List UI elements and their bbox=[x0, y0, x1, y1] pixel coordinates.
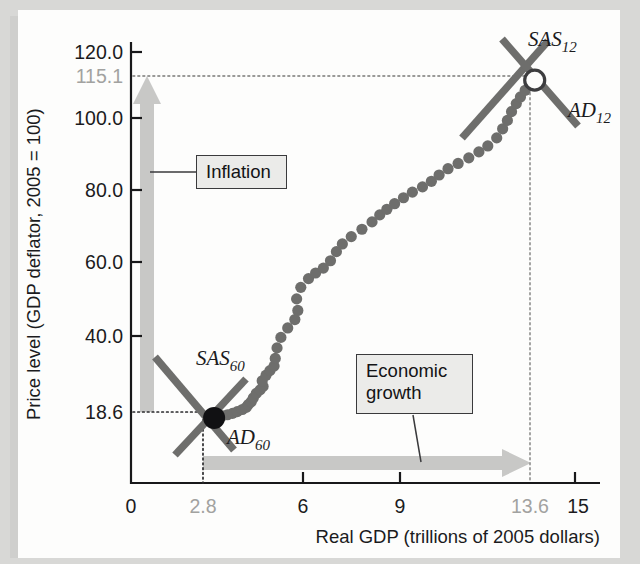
sas12-label-text: SAS bbox=[528, 27, 562, 51]
inflation-callout-text: Inflation bbox=[206, 161, 271, 182]
economic-growth-callout: Economic growth bbox=[356, 354, 473, 414]
x-tick-label-9: 9 bbox=[395, 495, 406, 517]
x-tick-label-0: 0 bbox=[126, 495, 137, 517]
ad60-label-sub: 60 bbox=[255, 437, 271, 453]
y-tick-label-60: 60.0 bbox=[85, 251, 123, 273]
x-axis-title: Real GDP (trillions of 2005 dollars) bbox=[316, 526, 600, 547]
x-tick-label-28: 2.8 bbox=[189, 495, 216, 517]
x-tick-label-15: 15 bbox=[567, 495, 589, 517]
ad12-label-sub: 12 bbox=[596, 110, 612, 126]
chart-figure: Price level (GDP deflator, 2005 = 100) 1… bbox=[0, 0, 640, 564]
ad60-label: AD60 bbox=[225, 425, 271, 453]
sas60-label-text: SAS bbox=[196, 346, 230, 370]
sas60-label-sub: 60 bbox=[230, 358, 246, 374]
sas12-label-sub: 12 bbox=[562, 39, 578, 55]
page-background: Price level (GDP deflator, 2005 = 100) 1… bbox=[0, 0, 640, 564]
ad12-label-text: AD bbox=[566, 98, 596, 122]
x-tick-label-136: 13.6 bbox=[511, 495, 549, 517]
y-tick-label-115: 115.1 bbox=[76, 65, 123, 87]
x-tick-label-6: 6 bbox=[298, 495, 309, 517]
y-axis-title: Price level (GDP deflator, 2005 = 100) bbox=[23, 108, 44, 420]
ad60-label-text: AD bbox=[225, 425, 255, 449]
sas12-label: SAS12 bbox=[528, 27, 577, 55]
inflation-callout: Inflation bbox=[196, 155, 287, 189]
ad12-label: AD12 bbox=[566, 98, 612, 126]
y-tick-label-18: 18.6 bbox=[85, 401, 123, 423]
y-tick-label-120: 120.0 bbox=[74, 41, 123, 63]
y-tick-label-40: 40.0 bbox=[85, 325, 123, 347]
sas60-label: SAS60 bbox=[196, 346, 245, 374]
economic-growth-callout-line1: Economic bbox=[366, 360, 463, 382]
y-tick-label-80: 80.0 bbox=[85, 179, 123, 201]
text-layer: Price level (GDP deflator, 2005 = 100) 1… bbox=[0, 0, 640, 564]
economic-growth-callout-line2: growth bbox=[366, 382, 463, 404]
y-tick-label-100: 100.0 bbox=[74, 107, 123, 129]
